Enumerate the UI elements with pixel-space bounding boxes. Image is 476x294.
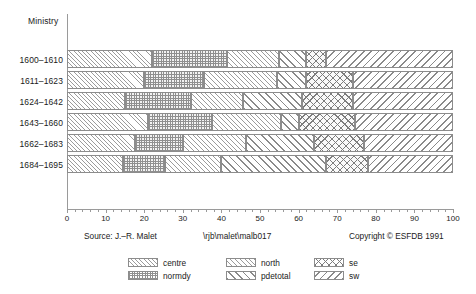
bar-segment-sw bbox=[355, 113, 453, 131]
x-tick-label: 40 bbox=[217, 214, 226, 223]
x-tick-minor bbox=[445, 209, 446, 212]
x-tick bbox=[144, 209, 145, 213]
bar-segment-se bbox=[314, 134, 364, 152]
legend-swatch-se bbox=[314, 258, 344, 267]
legend-row: normdypdetotalsw bbox=[100, 269, 400, 282]
x-tick-minor bbox=[399, 209, 400, 212]
bar-row bbox=[0, 113, 476, 131]
x-tick-minor bbox=[82, 209, 83, 212]
legend-item-normdy: normdy bbox=[128, 269, 191, 282]
bar-segment-north bbox=[183, 134, 247, 152]
bar-segment-pdetotal bbox=[246, 134, 314, 152]
x-tick-label: 90 bbox=[410, 214, 419, 223]
legend-item-north: north bbox=[226, 256, 280, 269]
x-tick bbox=[414, 209, 415, 213]
x-tick-minor bbox=[329, 209, 330, 212]
legend-item-se: se bbox=[314, 256, 358, 269]
x-tick-minor bbox=[98, 209, 99, 212]
x-tick-minor bbox=[129, 209, 130, 212]
x-tick-minor bbox=[368, 209, 369, 212]
x-tick-label: 10 bbox=[101, 214, 110, 223]
bar-segment-pdetotal bbox=[279, 50, 306, 68]
bar-row bbox=[0, 134, 476, 152]
x-tick-label: 80 bbox=[371, 214, 380, 223]
x-tick-minor bbox=[252, 209, 253, 212]
x-tick-minor bbox=[407, 209, 408, 212]
x-tick-minor bbox=[391, 209, 392, 212]
x-tick-minor bbox=[438, 209, 439, 212]
x-tick-minor bbox=[206, 209, 207, 212]
x-tick bbox=[299, 209, 300, 213]
x-tick bbox=[221, 209, 222, 213]
bar-segment-centre bbox=[67, 92, 125, 110]
bar-segment-sw bbox=[368, 155, 453, 173]
bar-segment-sw bbox=[353, 92, 453, 110]
footer-copyright: Copyright © ESFDB 1991 bbox=[349, 231, 444, 241]
footer-source: Source: J.–R. Malet bbox=[84, 231, 157, 241]
y-axis-line bbox=[67, 14, 68, 210]
x-tick-minor bbox=[430, 209, 431, 212]
bar-segment-sw bbox=[364, 134, 453, 152]
bar-segment-centre bbox=[67, 113, 148, 131]
x-tick-minor bbox=[353, 209, 354, 212]
x-tick bbox=[106, 209, 107, 213]
x-tick-minor bbox=[345, 209, 346, 212]
bar-segment-se bbox=[302, 92, 352, 110]
stacked-bar-chart: Ministry 0102030405060708090100 1600–161… bbox=[0, 0, 476, 294]
x-tick-minor bbox=[245, 209, 246, 212]
legend-label: sw bbox=[349, 271, 359, 281]
x-tick-minor bbox=[314, 209, 315, 212]
bar-segment-north bbox=[212, 113, 281, 131]
x-tick-label: 100 bbox=[446, 214, 459, 223]
legend-swatch-sw bbox=[314, 271, 344, 280]
chart-legend: centrenorthsenormdypdetotalsw bbox=[100, 256, 400, 282]
bar-segment-normdy bbox=[123, 155, 165, 173]
legend-row: centrenorthse bbox=[100, 256, 400, 269]
x-tick-minor bbox=[152, 209, 153, 212]
legend-swatch-north bbox=[226, 258, 256, 267]
bar-segment-normdy bbox=[148, 113, 212, 131]
legend-label: pdetotal bbox=[261, 271, 291, 281]
bar-segment-sw bbox=[326, 50, 453, 68]
bar-row bbox=[0, 155, 476, 173]
x-tick bbox=[453, 209, 454, 213]
legend-item-pdetotal: pdetotal bbox=[226, 269, 291, 282]
x-tick-minor bbox=[214, 209, 215, 212]
x-tick bbox=[183, 209, 184, 213]
x-tick-minor bbox=[90, 209, 91, 212]
legend-swatch-normdy bbox=[128, 271, 158, 280]
bar-segment-north bbox=[227, 50, 279, 68]
x-tick-minor bbox=[136, 209, 137, 212]
x-tick-label: 60 bbox=[294, 214, 303, 223]
bar-row bbox=[0, 92, 476, 110]
bar-segment-sw bbox=[353, 71, 453, 89]
bar-segment-se bbox=[306, 50, 325, 68]
x-tick-minor bbox=[175, 209, 176, 212]
bar-segment-north bbox=[191, 92, 243, 110]
x-tick-minor bbox=[191, 209, 192, 212]
footer-path: \rjb\malet\malb017 bbox=[203, 231, 271, 241]
bar-segment-centre bbox=[67, 50, 152, 68]
x-tick-minor bbox=[306, 209, 307, 212]
x-tick bbox=[67, 209, 68, 213]
x-tick-minor bbox=[384, 209, 385, 212]
x-tick-minor bbox=[113, 209, 114, 212]
bar-row bbox=[0, 50, 476, 68]
bar-segment-se bbox=[326, 155, 368, 173]
bar-segment-pdetotal bbox=[221, 155, 325, 173]
legend-label: se bbox=[349, 258, 358, 268]
bar-segment-centre bbox=[67, 134, 135, 152]
x-tick-label: 70 bbox=[333, 214, 342, 223]
x-tick bbox=[337, 209, 338, 213]
bar-segment-normdy bbox=[125, 92, 191, 110]
x-tick-minor bbox=[268, 209, 269, 212]
bar-segment-north bbox=[165, 155, 221, 173]
x-tick-minor bbox=[291, 209, 292, 212]
bar-segment-normdy bbox=[152, 50, 227, 68]
bar-segment-normdy bbox=[135, 134, 183, 152]
bar-segment-centre bbox=[67, 155, 123, 173]
x-tick-minor bbox=[121, 209, 122, 212]
bar-row bbox=[0, 71, 476, 89]
x-tick-minor bbox=[229, 209, 230, 212]
x-tick-minor bbox=[275, 209, 276, 212]
